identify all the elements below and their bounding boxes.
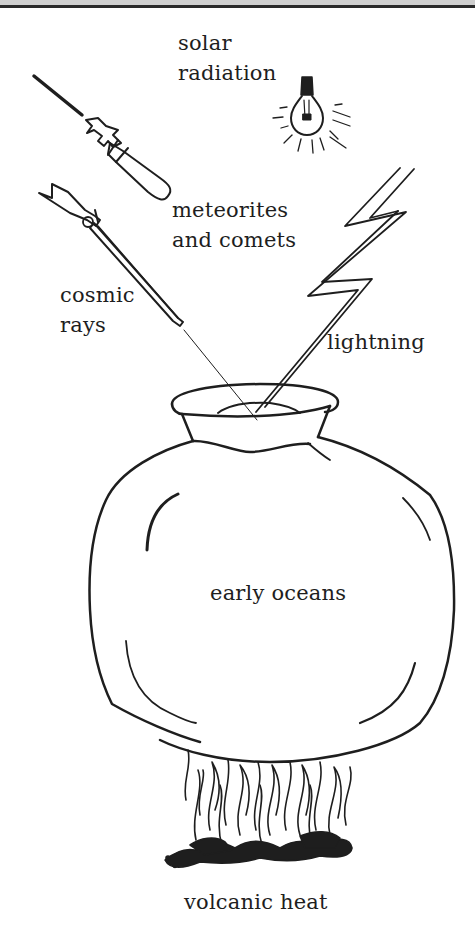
fire-icon [165,750,352,868]
illustration [0,0,475,938]
label-cosmic-rays: cosmic rays [60,280,135,340]
bomb-icon [34,76,170,199]
label-solar-radiation: solar radiation [178,28,276,88]
label-lightning: lightning [327,327,425,357]
label-meteorites-and-comets: meteorites and comets [172,195,296,255]
diagram-canvas: solar radiation meteorites and comets co… [0,0,475,938]
label-early-oceans: early oceans [210,578,346,608]
pot-icon [90,384,455,762]
label-volcanic-heat: volcanic heat [184,887,328,917]
light-bulb-icon [273,77,350,153]
